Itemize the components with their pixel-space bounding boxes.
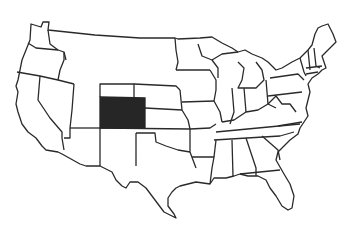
state-colorado: [100, 97, 145, 128]
us-map: [0, 0, 350, 228]
